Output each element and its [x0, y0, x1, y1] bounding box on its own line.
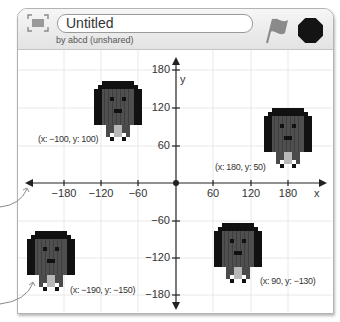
y-tick-label: 180 [136, 63, 170, 75]
x-tick-label: −180 [47, 187, 81, 199]
fullscreen-icon[interactable] [27, 14, 49, 32]
x-tick-label: 60 [196, 187, 230, 199]
y-tick-label: −180 [136, 288, 170, 300]
project-owner-subtitle: by abcd (unshared) [56, 35, 134, 45]
stop-icon[interactable] [298, 18, 323, 43]
x-tick-label: 120 [234, 187, 268, 199]
x-axis-label: x [314, 187, 320, 199]
x-tick-label: −60 [121, 187, 155, 199]
sprite-girl[interactable] [214, 223, 262, 283]
y-tick-label: −120 [136, 251, 170, 263]
sprite-coordinate-label: (x: −100, y: 100) [38, 134, 98, 144]
green-flag-icon[interactable] [264, 16, 290, 44]
stage-header: Untitled by abcd (unshared) [18, 9, 333, 50]
sprite-coordinate-label: (x: −190, y: −150) [70, 285, 135, 295]
sprite-coordinate-label: (x: 180, y: 50) [215, 162, 266, 172]
y-axis-label: y [180, 73, 186, 85]
x-tick-label: 180 [271, 187, 305, 199]
y-tick-label: −60 [136, 214, 170, 226]
sprite-girl[interactable] [264, 108, 312, 168]
sprite-coordinate-label: (x: 90, y: −130) [260, 276, 315, 286]
sprite-girl[interactable] [94, 81, 142, 141]
project-title-input[interactable]: Untitled [57, 14, 253, 33]
x-tick-label: −120 [84, 187, 118, 199]
sprite-girl[interactable] [27, 231, 75, 291]
